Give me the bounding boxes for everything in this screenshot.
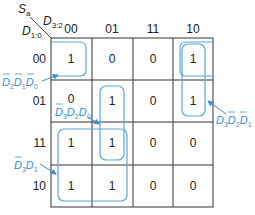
svg-text:D3D2D1: D3D2D1	[216, 114, 252, 128]
row-header-11: 11	[34, 136, 47, 150]
corner-labels: Sa D3:2 D1:0	[18, 2, 63, 40]
arrow-icon	[88, 117, 99, 124]
cell-r1-c2: 0	[150, 94, 157, 108]
col-header-01: 01	[105, 22, 119, 36]
row-header-10: 10	[33, 179, 47, 193]
arrow-icon	[208, 101, 226, 114]
cell-r1-c3: 1	[190, 94, 197, 108]
col-header-11: 11	[147, 22, 160, 36]
column-headers: 00 01 11 10	[64, 22, 200, 36]
cell-r0-c3: 1	[190, 52, 197, 66]
output-label: Sa	[18, 2, 31, 18]
column-variable-label: D3:2	[43, 14, 63, 30]
cell-r2-c2: 0	[150, 136, 157, 150]
cell-r3-c2: 0	[150, 179, 157, 193]
implicant-label-nd2-nd1-nd0: D2D1D0	[2, 74, 58, 90]
cell-r1-c0: 0	[68, 92, 75, 106]
loop-nd2-nd1-nd0-right	[180, 42, 213, 76]
cell-r3-c0: 1	[68, 179, 75, 193]
cell-r2-c0: 1	[68, 136, 75, 150]
implicant-label-d3-nd2-nd1: D3D2D1	[208, 101, 252, 128]
col-header-00: 00	[64, 22, 78, 36]
karnaugh-map: Sa D3:2 D1:0 00 01 11 10 00 01 11 10 1 0…	[0, 0, 255, 215]
cell-r1-c1: 1	[109, 94, 116, 108]
svg-text:D2D1D0: D2D1D0	[2, 76, 38, 90]
cell-r0-c1: 0	[109, 52, 116, 66]
svg-text:D3D1: D3D1	[14, 159, 38, 173]
cell-r2-c1: 1	[109, 136, 116, 150]
row-header-01: 01	[33, 94, 47, 108]
implicant-label-nd3-d1: D3D1	[14, 157, 56, 174]
cell-r0-c0: 1	[68, 52, 75, 66]
cell-r3-c1: 1	[109, 179, 116, 193]
svg-text:D3D2D0: D3D2D0	[55, 106, 91, 120]
cell-r0-c2: 0	[150, 52, 157, 66]
row-header-00: 00	[33, 52, 47, 66]
cell-r2-c3: 0	[190, 136, 197, 150]
cell-r3-c3: 0	[190, 179, 197, 193]
col-header-10: 10	[186, 22, 200, 36]
